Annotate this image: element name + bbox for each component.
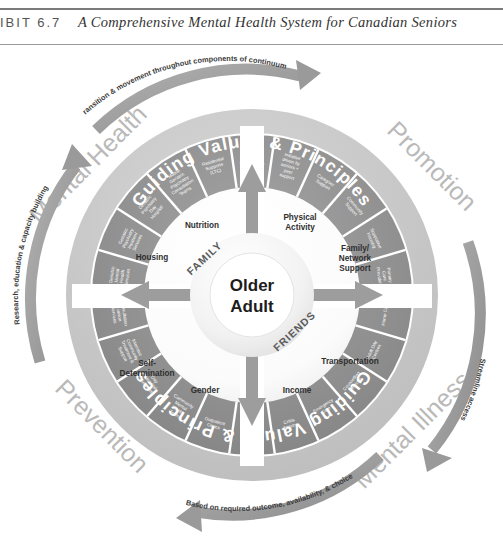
- exhibit-header: IBIT 6.7 A Comprehensive Mental Health S…: [0, 0, 503, 46]
- diagram-stage: Guiding Values & Principles Guiding Valu…: [0, 46, 503, 547]
- determinant-physical-activity: PhysicalActivity: [283, 213, 316, 232]
- header-rule-top: [0, 8, 503, 10]
- core-label-line1: Older: [230, 276, 275, 295]
- determinant-transportation: Transportation: [321, 357, 378, 366]
- exhibit-number: IBIT 6.7: [0, 15, 61, 30]
- determinant-income: Income: [283, 386, 312, 395]
- determinant-gender: Gender: [191, 386, 220, 395]
- flow-label-transition: Transition & movement throughout compone…: [0, 46, 288, 116]
- core-label-line2: Adult: [230, 297, 274, 316]
- diagram-svg-wrapper: Guiding Values & Principles Guiding Valu…: [0, 46, 503, 547]
- header-rule-bottom: [0, 44, 503, 45]
- determinant-housing: Housing: [136, 253, 169, 262]
- transition-arrowhead: [296, 60, 321, 90]
- exhibit-title: A Comprehensive Mental Health System for…: [78, 14, 457, 31]
- determinant-family-network-support: Family/NetworkSupport: [339, 244, 372, 273]
- determinant-nutrition: Nutrition: [185, 221, 219, 230]
